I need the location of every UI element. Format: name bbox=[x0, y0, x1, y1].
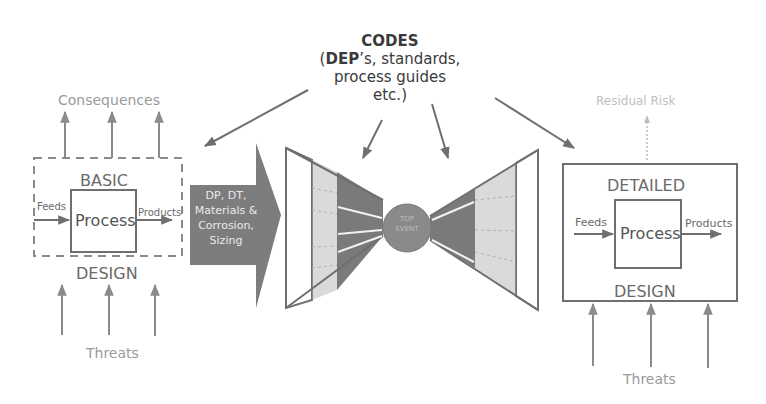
consequences-label: Consequences bbox=[58, 92, 160, 108]
detailed-label: DETAILED bbox=[607, 176, 685, 195]
basic-threats-label: Threats bbox=[86, 345, 139, 361]
basic-design-label: DESIGN bbox=[76, 264, 138, 283]
codes-line3: etc.) bbox=[300, 86, 480, 104]
detailed-feeds-label: Feeds bbox=[575, 216, 607, 229]
basic-label: BASIC bbox=[80, 171, 128, 190]
basic-products-label: Products bbox=[138, 207, 181, 218]
bowtie-left bbox=[286, 148, 383, 308]
codes-title: CODES bbox=[300, 32, 480, 50]
design-input-text: DP, DT, Materials & Corrosion, Sizing bbox=[190, 188, 262, 248]
codes-line1: (DEP’s, standards, bbox=[300, 50, 480, 68]
basic-feeds-label: Feeds bbox=[37, 201, 66, 212]
bowtie-right bbox=[430, 150, 538, 310]
detailed-products-label: Products bbox=[685, 217, 733, 230]
detailed-design-label: DESIGN bbox=[614, 282, 676, 301]
residual-risk-label: Residual Risk bbox=[596, 94, 675, 108]
top-event-label: TOP EVENT bbox=[383, 214, 431, 234]
codes-label: CODES (DEP’s, standards, process guides … bbox=[300, 32, 480, 104]
codes-line2: process guides bbox=[300, 68, 480, 86]
detailed-process-label: Process bbox=[620, 224, 681, 243]
basic-process-label: Process bbox=[75, 211, 136, 230]
detailed-threats-label: Threats bbox=[623, 371, 676, 387]
